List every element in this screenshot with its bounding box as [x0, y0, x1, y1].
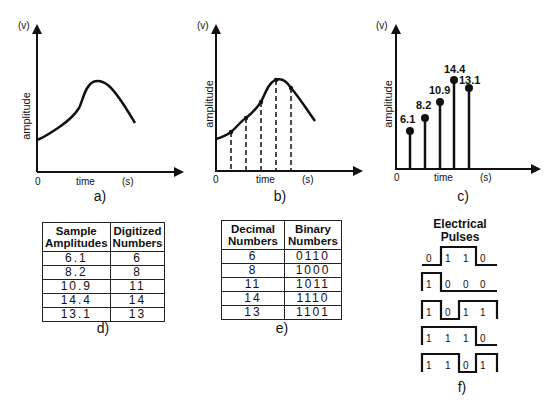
caption-a: a): [85, 188, 115, 204]
cell: 8.2: [43, 266, 111, 280]
bit: 1: [426, 360, 432, 371]
bit: 0: [480, 333, 486, 344]
cell: 1110: [285, 292, 342, 306]
cell: 11: [222, 278, 285, 292]
table-row: 6.16: [43, 252, 165, 266]
caption-d: d): [88, 320, 118, 336]
caption-b: b): [265, 188, 295, 204]
header-binary-numbers: Binary Numbers: [285, 221, 342, 250]
x-axis-arrow-icon: [174, 167, 184, 177]
header-sample-amplitudes: Sample Amplitudes: [43, 223, 111, 252]
y-axis-arrow-icon: [391, 24, 401, 34]
caption-f: f): [447, 379, 477, 395]
cell: 1101: [285, 306, 342, 320]
caption-c: c): [448, 188, 478, 204]
bit: 1: [426, 333, 432, 344]
y-unit-label: (v): [197, 20, 209, 31]
sample-value-1: 6.1: [400, 113, 415, 125]
cell: 14.4: [43, 294, 111, 308]
pulses-title: Electrical Pulses: [420, 218, 500, 244]
cell: 6: [222, 250, 285, 264]
x-axis-label: time: [76, 176, 95, 187]
table-row: 81000: [222, 264, 342, 278]
table-row: 141110: [222, 292, 342, 306]
cell: 1011: [285, 278, 342, 292]
cell: 6: [110, 252, 165, 266]
bit: 1: [463, 333, 469, 344]
x-origin-label: 0: [394, 172, 400, 183]
digitized-table: Sample Amplitudes Digitized Numbers 6.16…: [42, 222, 165, 322]
cell: 10.9: [43, 280, 111, 294]
bit: 1: [445, 333, 451, 344]
x-origin-label: 0: [213, 174, 219, 185]
bit: 1: [480, 360, 486, 371]
x-axis-arrow-icon: [531, 164, 541, 174]
bit: 1: [445, 360, 451, 371]
y-axis-label: amplitude: [20, 86, 32, 146]
y-axis-arrow-icon: [32, 24, 42, 34]
cell: 8: [110, 266, 165, 280]
cell: 8: [222, 264, 285, 278]
pulse-train-4: [422, 327, 497, 345]
cell: 13: [222, 306, 285, 320]
header-decimal-numbers: Decimal Numbers: [222, 221, 285, 250]
pulse-train-3: [422, 301, 497, 319]
cell: 11: [110, 280, 165, 294]
bit: 0: [463, 279, 469, 290]
y-axis-arrow-icon: [211, 24, 221, 34]
bit: 1: [463, 253, 469, 264]
sample-lines: [231, 80, 291, 171]
table-row: 60110: [222, 250, 342, 264]
cell: 13: [110, 308, 165, 322]
x-origin-label: 0: [35, 176, 41, 187]
header-digitized-numbers: Digitized Numbers: [110, 223, 165, 252]
x-unit-label: (s): [302, 174, 314, 185]
cell: 0110: [285, 250, 342, 264]
y-unit-label: (v): [376, 20, 388, 31]
x-axis-arrow-icon: [353, 166, 363, 176]
bit: 0: [445, 307, 451, 318]
pulse-train-2: [422, 273, 497, 291]
cell: 1000: [285, 264, 342, 278]
pulses-title-line2: Pulses: [420, 231, 500, 244]
bit: 0: [480, 279, 486, 290]
sample-value-3: 10.9: [429, 84, 450, 96]
bit: 0: [445, 279, 451, 290]
table-row: 131101: [222, 306, 342, 320]
electrical-pulses: 0 1 1 0 1 0 0 0 1 0 1 1 1 1 1 0 1 1 0 1: [415, 245, 505, 380]
cell: 6.1: [43, 252, 111, 266]
bit: 1: [463, 307, 469, 318]
pulse-train-5: [422, 354, 497, 372]
x-axis-label: time: [434, 172, 453, 183]
bit: 0: [480, 253, 486, 264]
y-axis-label: amplitude: [382, 74, 394, 134]
x-unit-label: (s): [122, 176, 134, 187]
bit: 1: [426, 279, 432, 290]
bit: 0: [463, 360, 469, 371]
sample-value-5: 13.1: [459, 74, 480, 86]
table-row: 8.28: [43, 266, 165, 280]
x-unit-label: (s): [480, 172, 492, 183]
y-unit-label: (v): [18, 20, 30, 31]
table-row: 10.911: [43, 280, 165, 294]
table-row: 111011: [222, 278, 342, 292]
analog-waveform: [37, 81, 135, 140]
cell: 14: [110, 294, 165, 308]
bit: 0: [426, 253, 432, 264]
sample-value-2: 8.2: [416, 99, 431, 111]
pulse-train-1: [422, 247, 497, 265]
bit: 1: [480, 307, 486, 318]
binary-table: Decimal Numbers Binary Numbers 60110 810…: [221, 220, 342, 320]
y-axis-label: amplitude: [203, 74, 215, 134]
cell: 14: [222, 292, 285, 306]
x-axis-label: time: [256, 174, 275, 185]
bit: 1: [426, 307, 432, 318]
caption-e: e): [267, 320, 297, 336]
table-row: 14.414: [43, 294, 165, 308]
bit: 1: [445, 253, 451, 264]
